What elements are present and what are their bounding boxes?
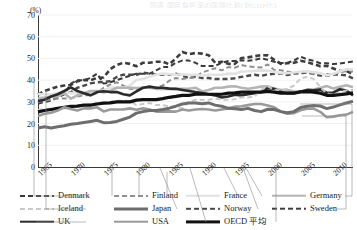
legend-swatch-icon — [186, 216, 220, 227]
legend-item-usa[interactable]: USA — [114, 216, 169, 227]
y-tick-30: 30 — [27, 97, 35, 106]
line-chart: (%) 010203040506070 19651970197519801985… — [0, 6, 357, 188]
legend-item-oecd-平均[interactable]: OECD 平均 — [186, 216, 267, 227]
legend-swatch-icon — [20, 203, 54, 214]
y-tick-10: 10 — [27, 141, 35, 150]
legend-label: Japan — [152, 203, 171, 214]
legend-label: Iceland — [58, 203, 83, 214]
legend-swatch-icon — [20, 190, 54, 201]
legend-label: France — [224, 190, 247, 201]
legend-label: OECD 平均 — [224, 216, 267, 227]
y-tick-50: 50 — [27, 54, 35, 63]
legend-swatch-icon — [114, 190, 148, 201]
legend-swatch-icon — [186, 190, 220, 201]
legend-item-france[interactable]: France — [186, 190, 247, 201]
legend-item-denmark[interactable]: Denmark — [20, 190, 90, 201]
y-tick-40: 40 — [27, 76, 35, 85]
y-tick-70: 70 — [27, 11, 35, 20]
legend-label: Denmark — [58, 190, 90, 201]
legend-item-sweden[interactable]: Sweden — [272, 203, 337, 214]
legend-swatch-icon — [114, 216, 148, 227]
legend-label: Finland — [152, 190, 178, 201]
series-lines — [38, 15, 353, 167]
legend-item-uk[interactable]: UK — [20, 216, 70, 227]
legend-swatch-icon — [272, 190, 306, 201]
chart-legend: DenmarkIcelandUKFinlandJapanUSAFranceNor… — [4, 190, 353, 228]
legend-label: Germany — [310, 190, 342, 201]
legend-item-japan[interactable]: Japan — [114, 203, 171, 214]
legend-swatch-icon — [186, 203, 220, 214]
data-series — [38, 52, 353, 128]
legend-item-germany[interactable]: Germany — [272, 190, 342, 201]
y-tick-60: 60 — [27, 32, 35, 41]
legend-item-finland[interactable]: Finland — [114, 190, 178, 201]
legend-label: UK — [58, 216, 70, 227]
y-tick-20: 20 — [27, 119, 35, 128]
legend-label: Norway — [224, 203, 251, 214]
plot-area — [38, 15, 353, 167]
y-axis-labels: 010203040506070 — [0, 6, 38, 171]
legend-label: Sweden — [310, 203, 337, 214]
legend-item-norway[interactable]: Norway — [186, 203, 251, 214]
legend-swatch-icon — [114, 203, 148, 214]
legend-item-iceland[interactable]: Iceland — [20, 203, 83, 214]
legend-swatch-icon — [272, 203, 306, 214]
legend-label: USA — [152, 216, 169, 227]
legend-swatch-icon — [20, 216, 54, 227]
